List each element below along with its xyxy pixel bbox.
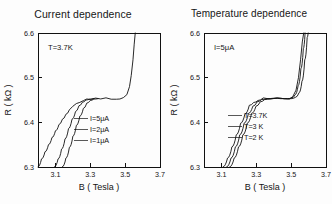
curve-I2A bbox=[55, 99, 94, 167]
y-axis-label: R ( kΩ ) bbox=[169, 84, 179, 115]
y-tick-label: 6.4 bbox=[24, 118, 34, 127]
y-tick-label: 6.3 bbox=[190, 163, 200, 172]
legend-label: T=3 K bbox=[244, 122, 264, 131]
x-axis-label: B ( Tesla ) bbox=[245, 182, 285, 192]
legend-label: T=3.7K bbox=[244, 111, 268, 120]
plot-current-dependence: 3.13.33.53.76.36.46.56.6B ( Tesla )R ( k… bbox=[0, 0, 166, 204]
legend-label: I=5μA bbox=[90, 114, 109, 123]
panel-annotation: I=5μA bbox=[214, 43, 235, 52]
panel-current-dependence: Current dependence 3.13.33.53.76.36.46.5… bbox=[0, 0, 166, 204]
y-tick-label: 6.5 bbox=[24, 73, 34, 82]
x-tick-label: 3.7 bbox=[155, 170, 165, 179]
x-tick-label: 3.3 bbox=[251, 170, 261, 179]
y-axis-label: R ( kΩ ) bbox=[3, 84, 13, 115]
panel-temperature-dependence: Temperature dependence 3.13.33.53.76.36.… bbox=[166, 0, 332, 204]
curve-T2K bbox=[230, 33, 308, 167]
legend-label: I=1μA bbox=[90, 136, 109, 145]
legend-label: I=2μA bbox=[90, 125, 109, 134]
x-tick-label: 3.5 bbox=[286, 170, 296, 179]
plot-frame bbox=[204, 33, 326, 167]
y-tick-label: 6.4 bbox=[190, 118, 200, 127]
x-tick-label: 3.3 bbox=[85, 170, 95, 179]
y-tick-label: 6.6 bbox=[24, 29, 34, 38]
x-tick-label: 3.1 bbox=[216, 170, 226, 179]
plot-temperature-dependence: 3.13.33.53.76.36.46.56.6B ( Tesla )R ( k… bbox=[166, 0, 332, 204]
panel-annotation: T=3.7K bbox=[48, 43, 73, 52]
legend-label: T=2 K bbox=[244, 133, 264, 142]
y-tick-label: 6.3 bbox=[24, 163, 34, 172]
x-axis-label: B ( Tesla ) bbox=[79, 182, 119, 192]
x-tick-label: 3.5 bbox=[120, 170, 130, 179]
x-tick-label: 3.1 bbox=[50, 170, 60, 179]
y-tick-label: 6.5 bbox=[190, 73, 200, 82]
y-tick-label: 6.6 bbox=[190, 29, 200, 38]
plot-frame bbox=[38, 33, 160, 167]
figure-root: Current dependence 3.13.33.53.76.36.46.5… bbox=[0, 0, 332, 204]
x-tick-label: 3.7 bbox=[321, 170, 331, 179]
